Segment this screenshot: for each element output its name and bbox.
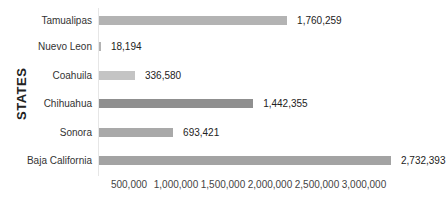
x-tick-label: 3,000,000	[342, 179, 387, 190]
bar	[99, 16, 287, 25]
value-label: 18,194	[111, 40, 142, 54]
x-tick-label: 2,000,000	[248, 179, 293, 190]
bar	[99, 128, 173, 137]
y-axis-line	[98, 8, 99, 176]
category-label: Tamualipas	[0, 14, 92, 28]
value-label: 693,421	[183, 126, 219, 140]
bar	[99, 156, 391, 165]
bar-row: Sonora693,421	[0, 126, 424, 140]
category-label: Chihuahua	[0, 97, 92, 111]
value-label: 2,732,393	[401, 154, 446, 168]
x-tick-label: 1,500,000	[201, 179, 246, 190]
category-label: Sonora	[0, 126, 92, 140]
bar-row: Baja California2,732,393	[0, 154, 424, 168]
category-label: Coahuila	[0, 69, 92, 83]
value-label: 336,580	[145, 69, 181, 83]
category-label: Nuevo Leon	[0, 40, 92, 54]
bar-row: Nuevo Leon18,194	[0, 40, 424, 54]
x-tick-label: 1,000,000	[154, 179, 199, 190]
value-label: 1,760,259	[297, 14, 342, 28]
x-tick-label: 500,000	[111, 179, 147, 190]
bar-row: Tamualipas1,760,259	[0, 14, 424, 28]
category-label: Baja California	[0, 154, 92, 168]
bar	[99, 71, 135, 80]
bar-row: Chihuahua1,442,355	[0, 97, 424, 111]
value-label: 1,442,355	[263, 97, 308, 111]
x-tick-label: 2,500,000	[295, 179, 340, 190]
bar	[99, 99, 253, 108]
bar	[99, 42, 101, 51]
bar-row: Coahuila336,580	[0, 69, 424, 83]
